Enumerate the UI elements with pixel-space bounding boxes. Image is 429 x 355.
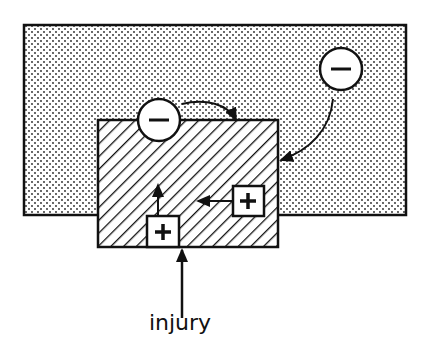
activator-origin-node — [147, 216, 179, 247]
diagram-canvas: injury — [0, 0, 429, 355]
inhibitor-local-node — [138, 99, 180, 141]
activator-spread-node — [233, 186, 264, 216]
injury-label: injury — [149, 310, 211, 335]
inhibitor-distant-node — [320, 48, 362, 90]
injured-region — [98, 120, 278, 247]
